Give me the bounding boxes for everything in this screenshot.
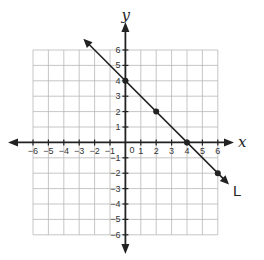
y-tick-label: 1	[115, 122, 120, 132]
x-tick-label: 2	[154, 146, 159, 156]
x-axis-arrow-right-icon	[224, 138, 234, 146]
x-axis-label: x	[238, 133, 247, 151]
x-tick-label: 4	[184, 146, 189, 156]
y-tick-label: 3	[115, 91, 120, 101]
x-tick-label: −3	[74, 146, 84, 156]
y-tick-label: 6	[115, 45, 120, 55]
data-point	[215, 170, 221, 176]
x-tick-label: 5	[200, 146, 205, 156]
y-tick-label: 2	[115, 107, 120, 117]
x-axis-arrow-left-icon	[8, 138, 18, 146]
x-tick-label: −6	[28, 146, 38, 156]
x-tick-label: 3	[169, 146, 174, 156]
y-tick-label: −1	[110, 153, 120, 163]
x-tick-label: 6	[215, 146, 220, 156]
data-point	[153, 109, 159, 115]
line-label: L	[233, 182, 241, 199]
y-tick-label: −6	[110, 230, 120, 240]
data-point	[122, 78, 128, 84]
data-point	[184, 139, 190, 145]
y-tick-label: 4	[115, 76, 120, 86]
origin-label: 0	[129, 145, 134, 155]
y-tick-label: 5	[115, 60, 120, 70]
y-tick-label: −2	[110, 168, 120, 178]
y-tick-label: −4	[110, 199, 120, 209]
y-axis-arrow-down-icon	[121, 244, 129, 254]
x-tick-label: −5	[43, 146, 53, 156]
x-tick-label: −4	[59, 146, 69, 156]
x-tick-label: 1	[138, 146, 143, 156]
y-tick-label: −3	[110, 184, 120, 194]
coordinate-plane: −6−5−4−3−2−1123456−6−5−4−3−2−11234560 x …	[0, 0, 264, 260]
y-tick-label: −5	[110, 214, 120, 224]
y-axis-label: y	[120, 6, 130, 24]
x-tick-label: −2	[89, 146, 99, 156]
